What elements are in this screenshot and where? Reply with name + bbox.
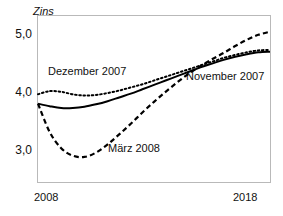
series-label-maerz-2008: März 2008 bbox=[108, 142, 160, 154]
series-label-dezember-2007: Dezember 2007 bbox=[48, 65, 126, 77]
x-tick-label-2008: 2008 bbox=[34, 191, 58, 203]
x-tick-label-2018: 2018 bbox=[233, 191, 257, 203]
y-tick-label-3: 3,0 bbox=[4, 143, 32, 157]
y-tick-label-5: 5,0 bbox=[4, 27, 32, 41]
plot-area bbox=[37, 15, 271, 183]
y-axis-title: Zins bbox=[33, 5, 54, 17]
y-tick-label-4: 4,0 bbox=[4, 85, 32, 99]
chart-figure: Zins 5,0 4,0 3,0 2008 2018 Dezember 2007… bbox=[0, 0, 283, 216]
series-label-november-2007: November 2007 bbox=[186, 70, 264, 82]
